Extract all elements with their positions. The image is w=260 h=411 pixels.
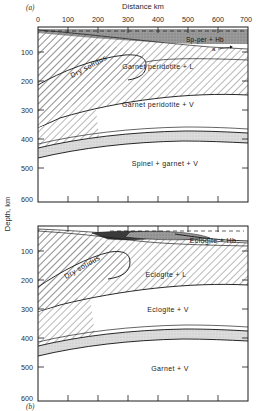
- y-tick-b-600: 600: [21, 394, 33, 403]
- y-axis-title: Depth, km: [3, 197, 12, 232]
- figure-phase-diagrams: (a) Distance km 0 100 200 300 400 500 60…: [0, 0, 260, 411]
- label-eclogite-l: Eclogite + L: [146, 271, 187, 279]
- y-tick-600: 600: [21, 195, 33, 204]
- label-garnet-peridotite-v: Garnet peridotite + V: [122, 101, 194, 109]
- label-garnet-v: Garnet + V: [151, 365, 189, 372]
- x-tick-400: 400: [152, 15, 164, 24]
- y-tick-400: 400: [21, 135, 33, 144]
- y-tick-100: 100: [21, 48, 33, 57]
- y-tick-b-200: 200: [21, 276, 33, 285]
- panel-a-label: (a): [26, 4, 35, 12]
- label-spinel-garnet-v: Spinel + garnet + V: [132, 160, 199, 168]
- y-tick-b-500: 500: [21, 363, 33, 372]
- panel-b: 100 200 300 400 500 600: [21, 226, 248, 411]
- x-tick-500: 500: [182, 15, 194, 24]
- x-tick-600: 600: [212, 15, 224, 24]
- x-tick-100: 100: [62, 15, 74, 24]
- y-tick-b-400: 400: [21, 334, 33, 343]
- y-tick-200: 200: [21, 77, 33, 86]
- x-tick-300: 300: [122, 15, 134, 24]
- label-eclogite-v: Eclogite + V: [147, 306, 189, 314]
- label-garnet-peridotite-l: Garnet peridotite + L: [122, 63, 193, 71]
- y-tick-b-300: 300: [21, 305, 33, 314]
- x-tick-200: 200: [92, 15, 104, 24]
- y-tick-300: 300: [21, 106, 33, 115]
- x-tick-0: 0: [36, 15, 40, 24]
- y-tick-500: 500: [21, 164, 33, 173]
- panel-a: (a) Distance km 0 100 200 300 400 500 60…: [21, 2, 252, 204]
- x-tick-700: 700: [240, 15, 252, 24]
- panel-b-label: (b): [26, 403, 35, 411]
- panel-b-plot-area: [38, 226, 248, 401]
- y-tick-b-100: 100: [21, 247, 33, 256]
- x-axis-title-a: Distance km: [122, 2, 164, 11]
- label-eclogite-hb: Eclogite + Hb: [190, 237, 236, 245]
- panel-a-plot-area: [38, 27, 248, 202]
- phase-diagram-svg: (a) Distance km 0 100 200 300 400 500 60…: [0, 0, 260, 411]
- label-sp-per-hb: Sp-per + Hb: [186, 36, 224, 44]
